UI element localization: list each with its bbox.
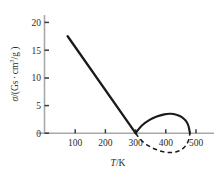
x-tick-label-400: 400 [159, 138, 174, 148]
y-tick-labels: 20 15 10 5 0 [32, 18, 42, 139]
upper-arc-curve [136, 114, 190, 133]
y-axis-title: σ/(Gs·cm3/g ) [8, 46, 20, 101]
linear-decay-curve [68, 36, 136, 133]
y-axis-unit-gs: Gs [10, 80, 20, 91]
x-tick-label-100: 100 [68, 138, 83, 148]
y-tick-label-0: 0 [36, 129, 41, 139]
x-axis-unit: K [119, 158, 126, 168]
chart-figure: 20 15 10 5 0 100 200 300 400 500 [0, 0, 220, 179]
y-tick-label-20: 20 [32, 18, 42, 28]
y-axis-unit-per-g: /g ) [10, 46, 21, 59]
y-tick-label-10: 10 [32, 73, 42, 83]
x-axis-title-group: T/K [111, 158, 126, 168]
y-axis-dot: · [10, 76, 20, 79]
y-tick-label-15: 15 [32, 46, 42, 56]
x-tick-labels: 100 200 300 400 500 [68, 138, 203, 148]
y-axis-unit-cm: cm [10, 62, 20, 74]
axes-group [38, 15, 214, 134]
x-axis-title: T/K [111, 158, 126, 168]
y-tick-label-5: 5 [36, 101, 41, 111]
y-axis-title-group: σ/(Gs·cm3/g ) [8, 46, 20, 101]
x-tick-label-500: 500 [189, 138, 204, 148]
sigma-vs-temperature-chart: 20 15 10 5 0 100 200 300 400 500 [0, 0, 220, 179]
x-tick-label-200: 200 [98, 138, 113, 148]
